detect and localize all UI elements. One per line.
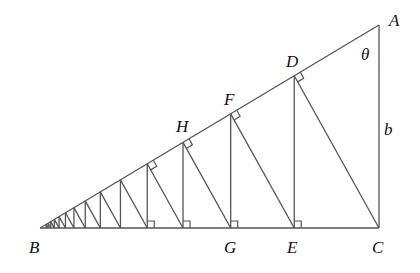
label-D: D xyxy=(286,53,298,70)
perpendicular-to-hypotenuse xyxy=(59,217,65,228)
label-theta: θ xyxy=(361,46,369,63)
label-b: b xyxy=(384,121,393,138)
label-G: G xyxy=(224,239,236,256)
perpendicular-to-hypotenuse xyxy=(100,192,120,228)
right-angle-mark-base xyxy=(231,221,238,228)
diagram-canvas: A θ D F H b B G E C xyxy=(0,0,420,273)
label-A: A xyxy=(389,12,399,29)
right-angle-mark-base xyxy=(183,221,190,228)
perpendicular-to-hypotenuse xyxy=(294,76,379,228)
perpendicular-to-hypotenuse xyxy=(65,213,73,228)
side-BA xyxy=(40,25,379,228)
label-H: H xyxy=(176,118,188,135)
label-F: F xyxy=(224,91,234,108)
perpendicular-to-hypotenuse xyxy=(147,164,183,228)
label-C: C xyxy=(372,239,383,256)
label-E: E xyxy=(287,239,297,256)
perpendicular-to-hypotenuse xyxy=(85,201,100,228)
label-B: B xyxy=(29,239,39,256)
right-angle-mark-base xyxy=(294,221,301,228)
perpendicular-to-hypotenuse xyxy=(183,142,231,228)
perpendicular-to-hypotenuse xyxy=(74,208,85,228)
perpendicular-to-hypotenuse xyxy=(54,219,59,228)
perpendicular-to-hypotenuse xyxy=(231,114,295,228)
triangle-figure xyxy=(0,0,420,273)
right-angle-mark-base xyxy=(147,221,154,228)
perpendicular-to-hypotenuse xyxy=(120,180,147,228)
